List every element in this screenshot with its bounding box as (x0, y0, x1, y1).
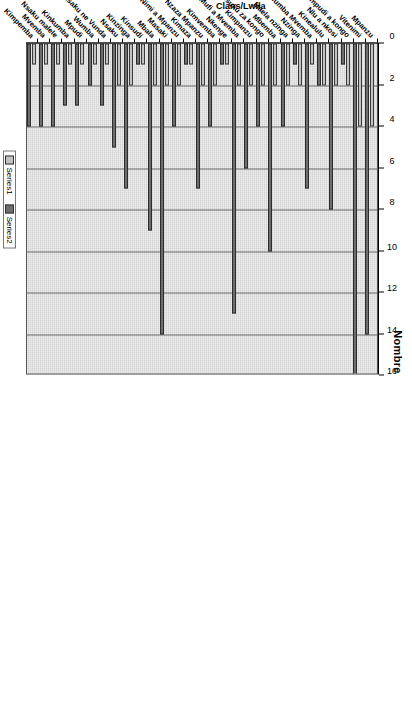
bar-row (88, 43, 100, 373)
bar-row (160, 43, 172, 373)
bar-row (281, 43, 293, 373)
bar-series2 (196, 43, 200, 188)
bar-series1 (153, 43, 157, 85)
x-tick-label: 2 (389, 72, 394, 82)
bar-series2 (281, 43, 285, 126)
bar-series2 (63, 43, 67, 105)
bar-row (256, 43, 268, 373)
legend-label-series2: Series2 (5, 216, 14, 243)
chart-canvas: Nombre 0246810121416 MpanzuVitenimiNimpu… (0, 0, 412, 703)
legend-swatch-series2 (5, 204, 14, 213)
bar-series2 (148, 43, 152, 230)
x-tick (379, 125, 384, 126)
bar-series2 (353, 43, 357, 374)
bar-row (305, 43, 317, 373)
legend-item: Series1 (5, 155, 14, 194)
bar-series2 (51, 43, 55, 126)
bar-series2 (244, 43, 248, 168)
legend-swatch-series1 (5, 155, 14, 164)
bar-row (172, 43, 184, 373)
bar-series1 (201, 43, 205, 85)
bar-row (136, 43, 148, 373)
bar-row (244, 43, 256, 373)
bar-row (196, 43, 208, 373)
legend-label-series1: Series1 (5, 167, 14, 194)
x-tick-label: 16 (387, 365, 397, 375)
bar-series2 (232, 43, 236, 313)
bar-series2 (317, 43, 321, 85)
bar-series2 (136, 43, 140, 64)
bar-series1 (129, 43, 133, 85)
x-tick-label: 12 (387, 282, 397, 292)
category-labels: MpanzuVitenimiNimpudi a kongoNlu a nkosi… (26, 0, 378, 42)
bar-row (39, 43, 51, 373)
bar-series1 (81, 43, 85, 64)
bar-series2 (208, 43, 212, 126)
x-tick (379, 374, 384, 375)
bar-series1 (225, 43, 229, 64)
x-tick (379, 291, 384, 292)
x-tick-label: 8 (389, 197, 394, 207)
x-tick (379, 208, 384, 209)
bar-series2 (269, 43, 273, 251)
bar-series1 (44, 43, 48, 64)
bar-series1 (68, 43, 72, 64)
bar-row (232, 43, 244, 373)
bar-series2 (112, 43, 116, 147)
x-tick-label: 4 (389, 114, 394, 124)
bar-series1 (370, 43, 374, 126)
bar-series1 (56, 43, 60, 64)
bar-rows (27, 43, 377, 373)
x-tick-label: 6 (389, 155, 394, 165)
bar-row (268, 43, 280, 373)
bar-series1 (237, 43, 241, 85)
bar-series1 (346, 43, 350, 85)
bar-series1 (249, 43, 253, 85)
chart-title: Nombre (392, 0, 404, 703)
bar-series1 (189, 43, 193, 64)
bar-row (124, 43, 136, 373)
x-tick (379, 250, 384, 251)
bar-series2 (329, 43, 333, 209)
bar-series1 (286, 43, 290, 85)
bar-row (353, 43, 365, 373)
bar-series2 (305, 43, 309, 188)
bar-row (27, 43, 39, 373)
bar-row (329, 43, 341, 373)
bar-series2 (293, 43, 297, 64)
bar-series2 (124, 43, 128, 188)
bar-row (293, 43, 305, 373)
bar-series2 (256, 43, 260, 126)
plot-area (26, 42, 378, 374)
bar-row (148, 43, 160, 373)
x-tick (379, 333, 384, 334)
bar-series2 (184, 43, 188, 64)
bar-series2 (172, 43, 176, 126)
x-tick (379, 167, 384, 168)
bar-row (220, 43, 232, 373)
bar-row (112, 43, 124, 373)
bar-series2 (365, 43, 369, 334)
bar-series1 (141, 43, 145, 64)
bar-series2 (220, 43, 224, 64)
bar-series2 (88, 43, 92, 85)
x-tick (379, 84, 384, 85)
bar-series1 (105, 43, 109, 64)
bar-series2 (100, 43, 104, 105)
bar-series1 (298, 43, 302, 85)
bar-series1 (165, 43, 169, 85)
x-tick-label: 0 (389, 31, 394, 41)
bar-series1 (32, 43, 36, 64)
bar-series1 (310, 43, 314, 64)
bar-row (365, 43, 377, 373)
bar-series2 (76, 43, 80, 105)
bar-series1 (322, 43, 326, 85)
bar-series1 (213, 43, 217, 85)
y-axis-title: Clans/Lwila (216, 0, 266, 10)
bar-row (75, 43, 87, 373)
bar-row (63, 43, 75, 373)
bar-row (341, 43, 353, 373)
legend: Series1 Series2 (3, 150, 16, 248)
bar-row (184, 43, 196, 373)
x-tick-label: 10 (387, 241, 397, 251)
